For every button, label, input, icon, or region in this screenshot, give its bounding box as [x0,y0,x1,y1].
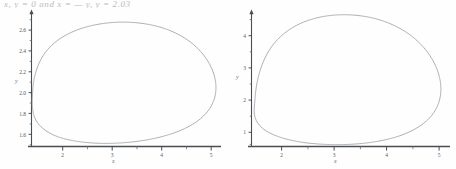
left-ytick-label-2.2: 2.2 [6,69,26,75]
left-xtick-label-4: 4 [156,152,168,158]
left-ytick-label-2.0: 2.0 [6,90,26,96]
left-xaxis-title: x [112,158,115,164]
right-ytick-label-2: 2 [230,97,246,103]
right-ytick-label-4: 4 [230,33,246,39]
right-y-axis-arrow [249,10,253,15]
left-plot-svg [0,0,228,169]
right-plot-svg [228,0,456,169]
left-xtick-label-2: 2 [57,152,69,158]
right-xtick-label-2: 2 [276,152,288,158]
left-plot-panel: 1.6 1.8 2.0 2.2 2.4 2.6 2 3 4 5 x y [0,0,228,169]
right-xtick-label-4: 4 [381,152,393,158]
left-ytick-label-2.4: 2.4 [6,48,26,54]
left-y-axis-arrow [29,10,33,15]
left-axes [28,10,221,151]
left-yaxis-title: y [15,78,18,84]
left-ytick-label-1.8: 1.8 [6,111,26,117]
right-axes [248,10,450,151]
left-ytick-label-2.6: 2.6 [6,27,26,33]
right-plot-panel: 1 2 3 4 2 3 4 5 x y [228,0,456,169]
figure-canvas: x, y = 0 and x = — y, y = 2.03 [0,0,456,169]
right-ytick-label-1: 1 [230,129,246,135]
left-ytick-label-1.6: 1.6 [6,132,26,138]
left-xtick-label-5: 5 [205,152,217,158]
left-orbit-curve [32,22,216,143]
right-xaxis-title: x [334,158,337,164]
right-xtick-label-5: 5 [433,152,445,158]
right-ytick-label-3: 3 [230,65,246,71]
right-yaxis-title: y [236,74,239,80]
right-orbit-curve [254,15,441,145]
